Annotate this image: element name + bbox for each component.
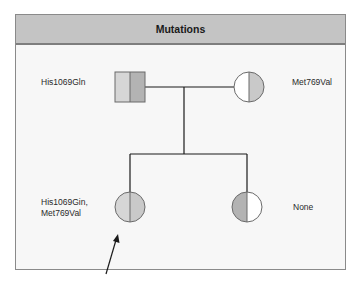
child2-circle-icon — [232, 192, 262, 222]
father-label: His1069Gln — [41, 77, 85, 88]
mother-circle-icon — [234, 72, 264, 102]
child2-label: None — [293, 202, 313, 213]
child1-label: His1069Gin, Met769Val — [41, 197, 88, 219]
child1-circle-icon — [115, 192, 145, 222]
mother-label: Met769Val — [292, 77, 332, 88]
pedigree-diagram — [0, 0, 361, 294]
father-square-icon — [115, 72, 145, 102]
proband-arrow-icon — [106, 234, 120, 274]
pedigree-lines — [130, 87, 247, 192]
